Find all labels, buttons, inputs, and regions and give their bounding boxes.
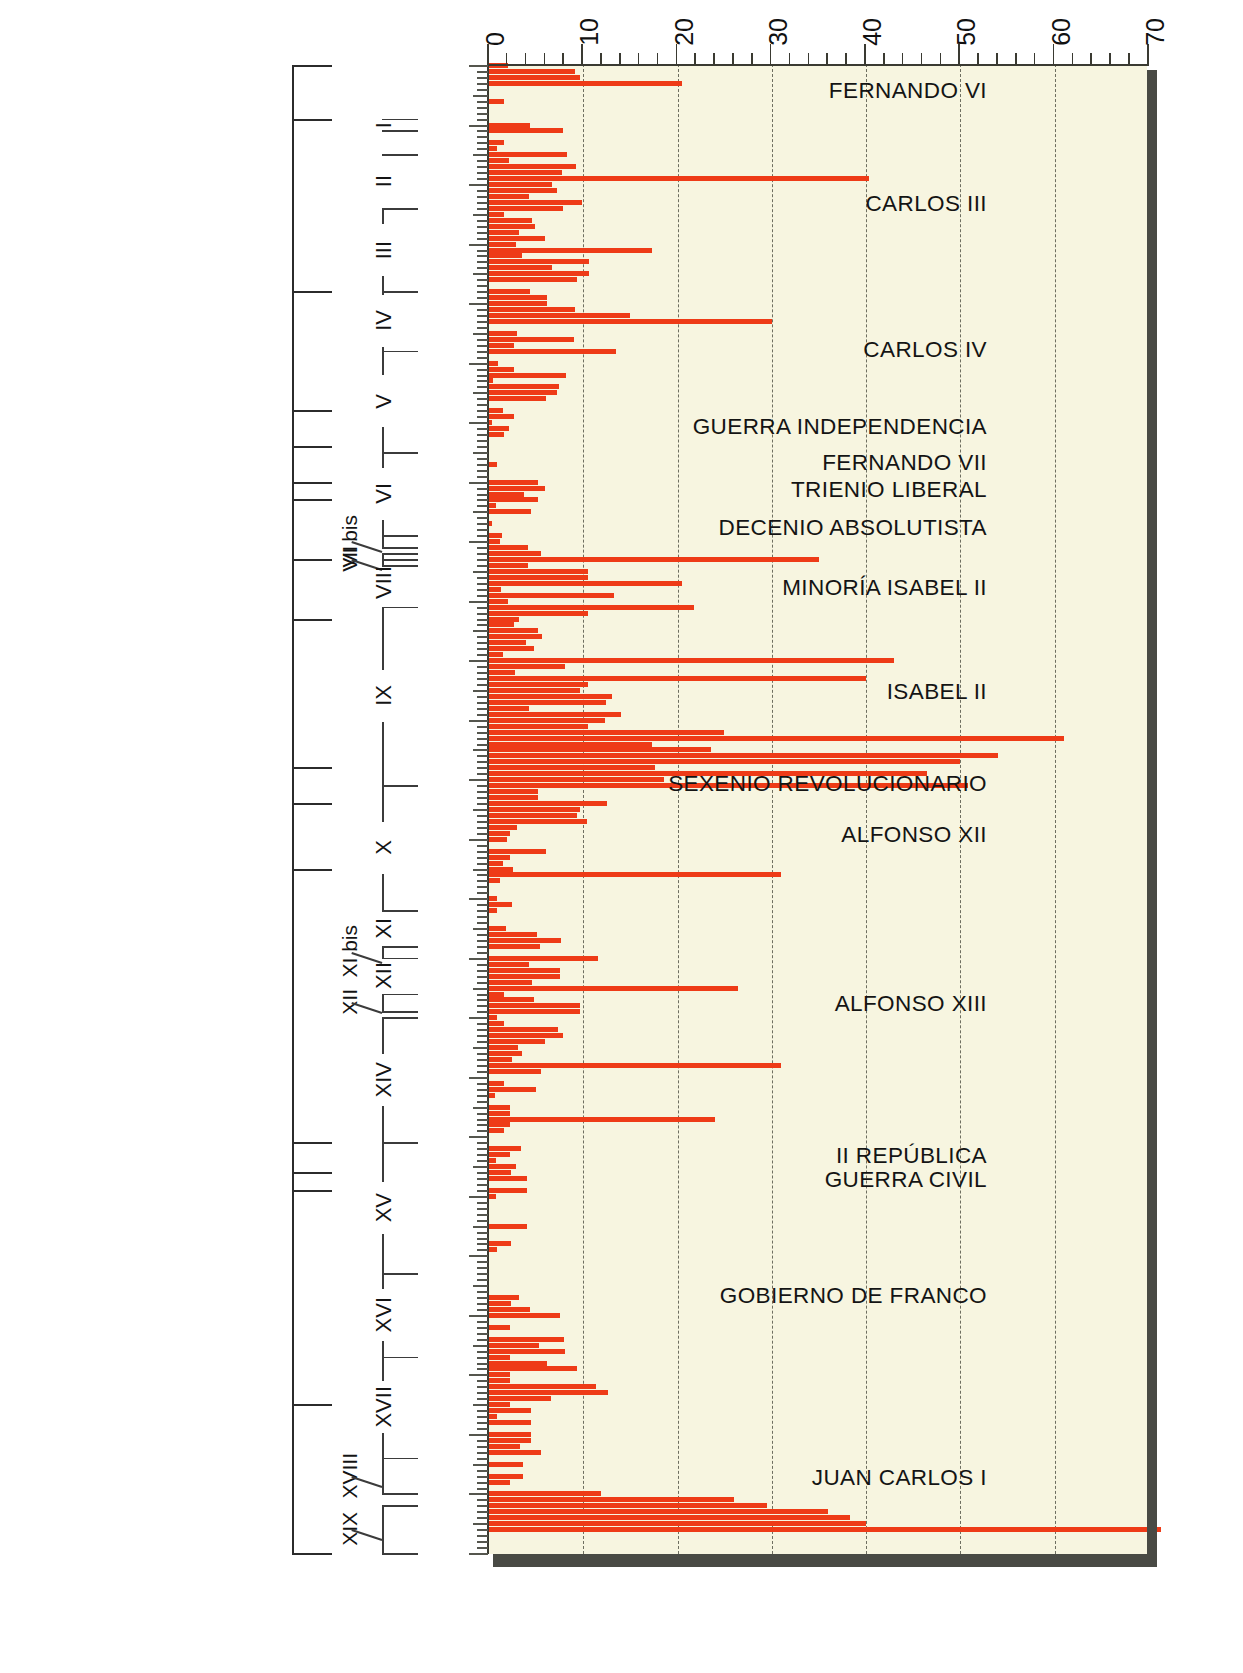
bar bbox=[489, 1033, 563, 1038]
bar bbox=[489, 1420, 531, 1425]
gridline-20 bbox=[678, 64, 679, 1554]
bar bbox=[489, 1015, 497, 1020]
year-tick-1792 bbox=[477, 315, 488, 317]
year-tick-1824 bbox=[477, 505, 488, 507]
period-label-outside: XII bbox=[338, 989, 362, 1015]
value-tick-68 bbox=[1128, 53, 1130, 64]
year-tick-1924 bbox=[477, 1101, 488, 1103]
bar bbox=[489, 313, 630, 318]
bar bbox=[489, 224, 535, 229]
bar bbox=[489, 1188, 527, 1193]
bar bbox=[489, 1361, 547, 1366]
year-tick-1933 bbox=[477, 1154, 488, 1156]
year-tick-1799 bbox=[477, 357, 488, 359]
bar bbox=[489, 248, 652, 253]
year-tick-1803 bbox=[477, 380, 488, 382]
reign-cap bbox=[292, 1404, 332, 1406]
bar bbox=[489, 1087, 536, 1092]
gridline-10 bbox=[583, 64, 584, 1554]
bar bbox=[489, 813, 577, 818]
year-tick-1958 bbox=[477, 1303, 488, 1305]
year-tick-1909 bbox=[477, 1011, 488, 1013]
bar bbox=[489, 146, 497, 151]
bar bbox=[489, 688, 580, 693]
year-tick-1990 bbox=[469, 1493, 488, 1495]
year-tick-1917 bbox=[477, 1059, 488, 1061]
reign-label: ALFONSO XIII bbox=[835, 991, 987, 1017]
period-stem bbox=[382, 535, 384, 547]
value-tick-56 bbox=[1015, 53, 1017, 64]
year-tick-1992 bbox=[477, 1505, 488, 1507]
value-tick-70 bbox=[1147, 44, 1149, 64]
year-tick-1908 bbox=[477, 1005, 488, 1007]
year-tick-1750 bbox=[469, 65, 488, 67]
bar bbox=[489, 1105, 510, 1110]
reign-label: CARLOS III bbox=[865, 191, 987, 217]
year-tick-1865 bbox=[473, 749, 488, 751]
bar bbox=[489, 533, 502, 538]
bar bbox=[489, 819, 587, 824]
bar bbox=[489, 1372, 510, 1377]
year-tick-1855 bbox=[473, 690, 488, 692]
bar bbox=[489, 1045, 518, 1050]
year-tick-1874 bbox=[477, 803, 488, 805]
year-tick-1758 bbox=[477, 113, 488, 115]
bar bbox=[489, 1241, 511, 1246]
year-tick-1930 bbox=[469, 1136, 488, 1138]
year-tick-1846 bbox=[477, 636, 488, 638]
year-tick-1885 bbox=[473, 869, 488, 871]
reign-rule bbox=[292, 446, 294, 482]
period-stem bbox=[382, 607, 384, 670]
reign-rule bbox=[292, 1172, 294, 1190]
year-tick-1999 bbox=[477, 1547, 488, 1549]
bar bbox=[489, 712, 621, 717]
period-cap bbox=[382, 553, 418, 555]
year-tick-1801 bbox=[477, 369, 488, 371]
gridline-30 bbox=[772, 64, 773, 1554]
bar bbox=[489, 1009, 580, 1014]
year-tick-1889 bbox=[477, 892, 488, 894]
bar bbox=[489, 1337, 564, 1342]
bar bbox=[489, 492, 524, 497]
bar bbox=[489, 420, 492, 425]
year-tick-1920 bbox=[469, 1077, 488, 1079]
constitution-period-column: IIIIIIIVVVIVI bisVIIVIIIIXXXIXI bisXIIXI… bbox=[330, 0, 460, 1673]
period-cap bbox=[382, 154, 418, 156]
reign-rule bbox=[292, 619, 294, 768]
year-tick-1843 bbox=[477, 619, 488, 621]
year-tick-1793 bbox=[477, 321, 488, 323]
period-stem bbox=[382, 785, 384, 821]
year-tick-1914 bbox=[477, 1041, 488, 1043]
bar bbox=[489, 926, 506, 931]
year-tick-1932 bbox=[477, 1148, 488, 1150]
year-tick-1873 bbox=[477, 797, 488, 799]
year-tick-1778 bbox=[477, 232, 488, 234]
period-cap bbox=[382, 130, 418, 132]
year-tick-1761 bbox=[477, 130, 488, 132]
period-label: XI bbox=[371, 918, 397, 939]
reign-label: JUAN CARLOS I bbox=[812, 1465, 987, 1491]
year-tick-1794 bbox=[477, 327, 488, 329]
year-tick-1995 bbox=[473, 1523, 488, 1525]
bar bbox=[489, 277, 577, 282]
year-tick-1752 bbox=[477, 77, 488, 79]
year-tick-1869 bbox=[477, 773, 488, 775]
year-tick-1907 bbox=[477, 999, 488, 1001]
year-tick-1955 bbox=[473, 1285, 488, 1287]
bar bbox=[489, 1307, 530, 1312]
bar bbox=[489, 706, 529, 711]
period-cap bbox=[382, 1505, 418, 1507]
bar bbox=[489, 182, 552, 187]
year-tick-1971 bbox=[477, 1380, 488, 1382]
year-tick-1857 bbox=[477, 702, 488, 704]
year-tick-1848 bbox=[477, 648, 488, 650]
bar bbox=[489, 349, 616, 354]
period-cap bbox=[382, 1142, 418, 1144]
year-tick-1974 bbox=[477, 1398, 488, 1400]
year-tick-1866 bbox=[477, 755, 488, 757]
bar bbox=[489, 759, 960, 764]
bar bbox=[489, 569, 588, 574]
period-stem bbox=[382, 874, 384, 910]
year-axis bbox=[468, 64, 488, 1559]
bar bbox=[489, 593, 614, 598]
